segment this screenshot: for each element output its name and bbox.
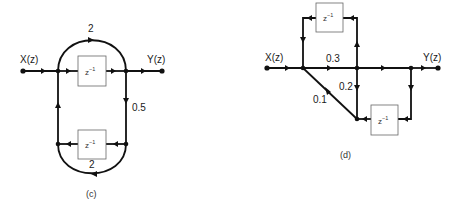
gain-label: 2 [89, 159, 95, 170]
arrow-icon [408, 85, 414, 91]
output-node [435, 65, 440, 70]
node [355, 66, 360, 71]
arrow-icon [66, 68, 71, 74]
input-label: X(z) [20, 54, 38, 65]
output-node [159, 68, 164, 73]
node [409, 66, 414, 71]
arrow-icon [141, 68, 146, 74]
arrow-icon [354, 85, 360, 91]
gain-label: 2 [88, 23, 94, 34]
node [56, 142, 61, 147]
input-node [20, 68, 25, 73]
arrow-icon [403, 116, 408, 122]
arrow-icon [66, 141, 71, 147]
arrow-icon [381, 65, 386, 71]
output-label: Y(z) [147, 54, 165, 65]
node [355, 117, 360, 122]
gain-label: 0.2 [339, 81, 353, 92]
arrow-icon [41, 68, 46, 74]
arrow-icon [111, 68, 116, 74]
output-label: Y(z) [423, 52, 441, 63]
gain-label: 0.1 [313, 94, 327, 105]
gain-label: 0.3 [326, 53, 340, 64]
node [124, 142, 129, 147]
signal-flow-graph-d: z−1 z−1 X(z) Y(z) 0.3 0.2 0.1 (d) [264, 3, 441, 160]
gain-label: 0.5 [132, 102, 146, 113]
node [301, 66, 306, 71]
node [124, 69, 129, 74]
arrow-icon [421, 65, 426, 71]
arrow-icon [300, 37, 306, 43]
input-node [264, 65, 269, 70]
arrow-icon [285, 65, 290, 71]
arrow-icon [55, 102, 61, 108]
caption: (c) [86, 189, 97, 199]
arrow-icon [307, 15, 312, 21]
signal-flow-graph-c: z−1 z−1 X(z) Y(z) 2 0.5 2 (c) [20, 23, 165, 199]
node [56, 69, 61, 74]
arrow-icon [354, 41, 360, 47]
input-label: X(z) [265, 52, 283, 63]
arrow-icon [88, 37, 94, 43]
caption: (d) [340, 150, 351, 160]
arrow-icon [113, 141, 118, 147]
arrow-icon [349, 15, 354, 21]
arrow-icon [362, 116, 367, 122]
arrow-icon [91, 171, 97, 177]
arrow-icon [123, 98, 129, 104]
arrow-icon [327, 65, 332, 71]
